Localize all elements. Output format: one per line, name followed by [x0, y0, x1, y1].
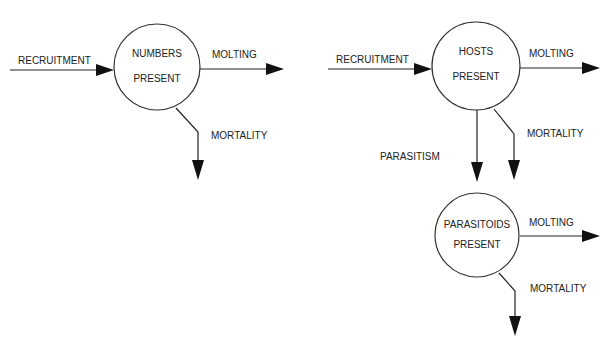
host-mortality-arrowhead-icon — [508, 160, 520, 180]
parasitoid-molting-arrowhead-icon — [582, 230, 600, 242]
parasitoids-present-line1: PARASITOIDS — [444, 219, 511, 230]
parasitoids-present-node — [435, 193, 519, 277]
mortality-arrow-line — [176, 108, 198, 162]
host-molting-arrowhead-icon — [582, 62, 600, 74]
numbers-present-line1: NUMBERS — [132, 48, 182, 59]
parasitoid-mortality-arrowhead-icon — [509, 316, 521, 336]
parasitoid-mortality-label: MORTALITY — [530, 283, 587, 294]
parasitoid-mortality-arrow-line — [499, 273, 515, 318]
host-recruitment-label: RECRUITMENT — [336, 54, 409, 65]
molting-arrowhead-icon — [266, 63, 284, 75]
left-model: RECRUITMENT NUMBERS PRESENT MOLTING MORT… — [10, 24, 284, 180]
flow-diagram: RECRUITMENT NUMBERS PRESENT MOLTING MORT… — [0, 0, 611, 347]
mortality-label: MORTALITY — [211, 130, 268, 141]
host-molting-label: MOLTING — [529, 48, 574, 59]
numbers-present-line2: PRESENT — [133, 73, 180, 84]
host-mortality-label: MORTALITY — [527, 128, 584, 139]
recruitment-arrowhead-icon — [96, 64, 114, 76]
hosts-present-line1: HOSTS — [459, 46, 494, 57]
parasitism-arrowhead-icon — [471, 162, 483, 182]
mortality-arrowhead-icon — [192, 160, 204, 180]
parasitoid-molting-label: MOLTING — [529, 217, 574, 228]
numbers-present-node — [114, 24, 200, 110]
host-recruitment-arrowhead-icon — [414, 63, 432, 75]
molting-label: MOLTING — [212, 49, 257, 60]
parasitoids-present-line2: PRESENT — [453, 239, 500, 250]
hosts-present-node — [432, 22, 520, 110]
host-mortality-arrow-line — [494, 109, 514, 162]
recruitment-label: RECRUITMENT — [18, 55, 91, 66]
right-model: RECRUITMENT HOSTS PRESENT MOLTING MORTAL… — [328, 22, 600, 336]
parasitism-label: PARASITISM — [380, 151, 440, 162]
hosts-present-line2: PRESENT — [452, 71, 499, 82]
